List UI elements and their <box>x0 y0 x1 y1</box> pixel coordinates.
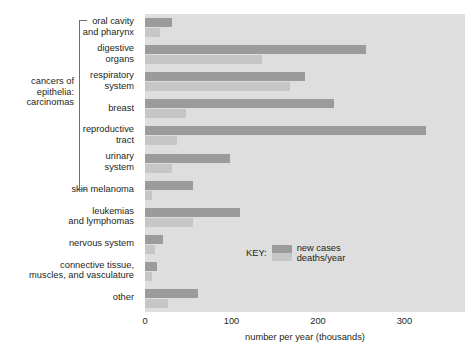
category-label: connective tissue, muscles, and vasculat… <box>2 260 134 281</box>
x-tick-label: 200 <box>310 316 326 326</box>
legend-swatches <box>272 245 292 261</box>
carcinoma-group-label: cancers of epithelia: carcinomas <box>0 76 74 108</box>
legend-swatch-new-cases <box>272 245 292 253</box>
category-label: digestive organs <box>2 43 134 64</box>
bar-deaths <box>145 164 172 173</box>
bar-deaths <box>145 109 186 118</box>
bar-new-cases <box>145 289 198 298</box>
category-label: reproductive tract <box>2 124 134 145</box>
bar-new-cases <box>145 126 426 135</box>
legend-entry-labels: new cases deaths/year <box>297 243 346 264</box>
legend-swatch-deaths <box>272 253 292 261</box>
category-label: nervous system <box>2 238 134 249</box>
category-label: skin melanoma <box>2 184 134 195</box>
bar-deaths <box>145 28 160 37</box>
bar-new-cases <box>145 235 163 244</box>
bar-new-cases <box>145 208 240 217</box>
bar-deaths <box>145 55 262 64</box>
bar-new-cases <box>145 99 334 108</box>
plot-area <box>145 14 465 312</box>
carcinoma-group-bracket <box>79 20 87 190</box>
x-tick-label: 100 <box>224 316 240 326</box>
legend-label-deaths: deaths/year <box>297 253 346 263</box>
category-label-column: oral cavity and pharynxdigestive organsr… <box>0 14 140 312</box>
category-label: leukemias and lymphomas <box>2 206 134 227</box>
cancer-incidence-bar-chart: oral cavity and pharynxdigestive organsr… <box>0 0 476 356</box>
bar-deaths <box>145 82 290 91</box>
bar-deaths <box>145 218 193 227</box>
x-tick-label: 300 <box>397 316 413 326</box>
bar-new-cases <box>145 72 305 81</box>
bar-deaths <box>145 191 152 200</box>
category-label: other <box>2 292 134 303</box>
bar-deaths <box>145 136 177 145</box>
bar-deaths <box>145 299 168 308</box>
legend-title: KEY: <box>246 248 267 259</box>
bar-new-cases <box>145 262 157 271</box>
chart-legend: KEY: new cases deaths/year <box>246 243 345 264</box>
bar-new-cases <box>145 181 193 190</box>
bar-new-cases <box>145 154 230 163</box>
bar-deaths <box>145 272 152 281</box>
legend-label-new-cases: new cases <box>297 243 346 253</box>
bar-new-cases <box>145 45 366 54</box>
category-label: urinary system <box>2 151 134 172</box>
x-tick-label: 0 <box>142 316 147 326</box>
category-label: oral cavity and pharynx <box>2 16 134 37</box>
bar-deaths <box>145 245 155 254</box>
x-axis-label: number per year (thousands) <box>145 332 465 342</box>
bar-new-cases <box>145 18 172 27</box>
